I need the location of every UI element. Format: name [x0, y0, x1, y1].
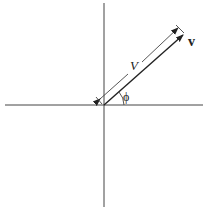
magnitude-label: V — [130, 58, 140, 73]
phasor-diagram: V v ϕ — [0, 0, 207, 213]
vector-v — [104, 35, 183, 105]
vector-label: v — [188, 34, 195, 49]
angle-label: ϕ — [123, 90, 129, 104]
